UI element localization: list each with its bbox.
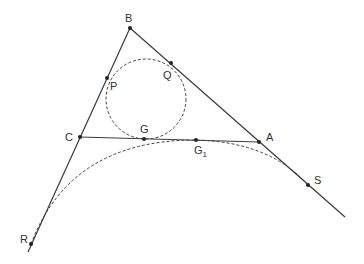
point-p [105,76,109,80]
point-r [29,242,33,246]
label-p: P [110,80,117,92]
label-b: B [125,12,132,24]
line-b-c-extended [28,28,130,252]
point-g [142,137,146,141]
point-a [257,140,261,144]
label-c: C [65,131,73,143]
label-s: S [314,174,321,186]
label-a: A [266,131,274,143]
point-g1 [194,138,198,142]
point-b [128,26,132,30]
label-g1: G1 [194,144,208,159]
line-b-a-extended [130,28,345,217]
point-c [78,135,82,139]
label-g: G [140,123,149,135]
geometry-diagram: B C A P Q G G1 S R [0,0,364,264]
label-g1-subscript: 1 [203,150,208,159]
label-q: Q [163,69,172,81]
label-g1-main: G [194,144,203,156]
point-s [306,183,310,187]
label-r: R [20,233,28,245]
point-q [169,61,173,65]
